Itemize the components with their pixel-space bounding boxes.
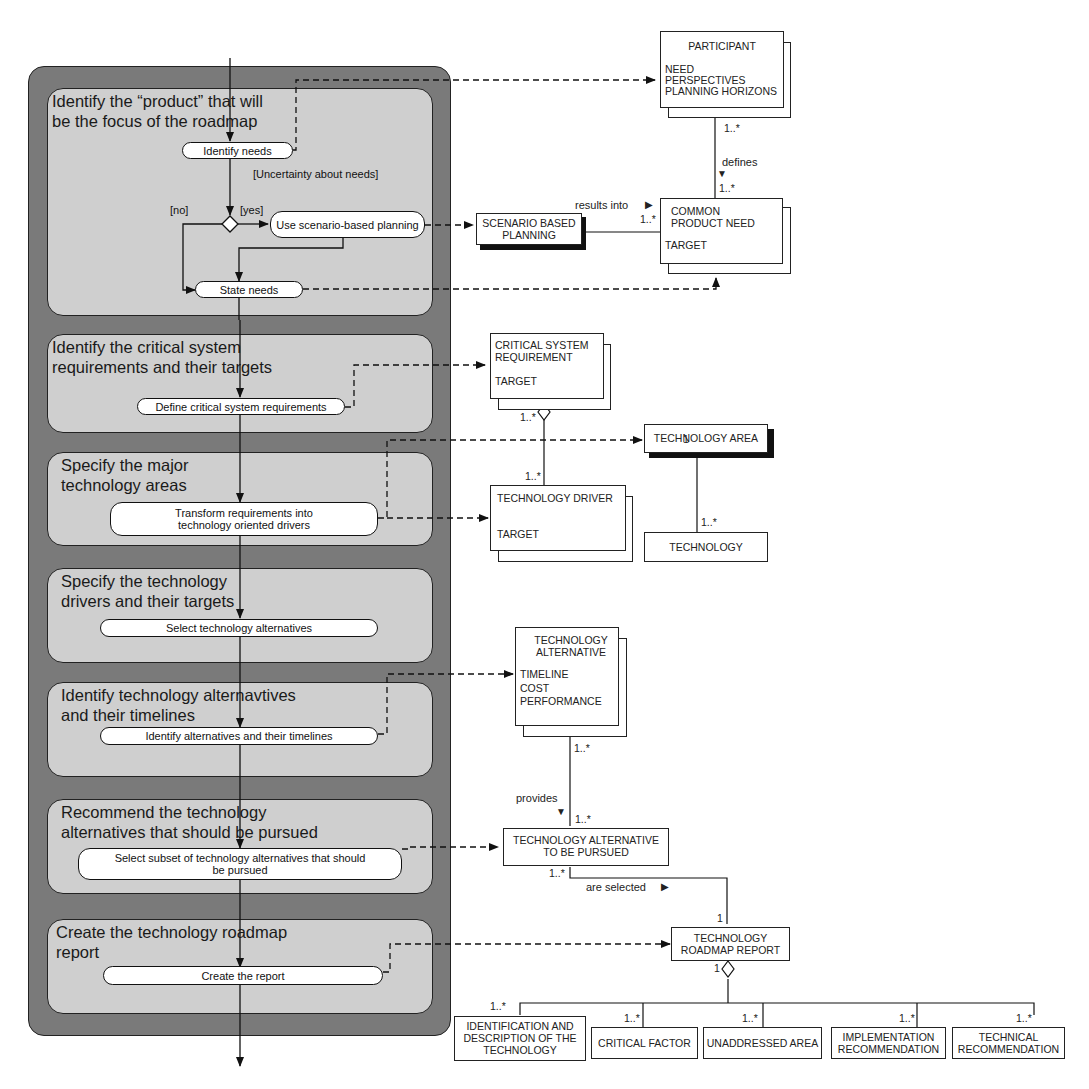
class-common-product-need[interactable]: COMMON PRODUCT NEED TARGET — [660, 198, 783, 264]
guard-no: [no] — [170, 204, 188, 216]
multiplicity: 1 — [683, 433, 689, 445]
activity-identify-alternatives-timelines[interactable]: Identify alternatives and their timeline… — [100, 727, 378, 745]
class-technology-alternative[interactable]: TECHNOLOGY ALTERNATIVE TIMELINE COST PER… — [515, 627, 619, 726]
class-name: TECHNOLOGY DRIVER — [497, 492, 619, 504]
assoc-are-selected-arrow-icon: ▶ — [661, 881, 669, 892]
assoc-provides-arrow-icon: ▼ — [556, 806, 566, 817]
class-participant[interactable]: PARTICIPANT NEED PERSPECTIVES PLANNING H… — [660, 31, 784, 108]
activity-identify-needs[interactable]: Identify needs — [182, 142, 293, 159]
multiplicity: 1..* — [549, 867, 565, 879]
assoc-provides-label: provides — [516, 792, 558, 804]
class-attributes: TARGET — [497, 528, 619, 540]
class-technology-roadmap-report[interactable]: TECHNOLOGY ROADMAP REPORT — [671, 927, 790, 961]
class-scenario-based-planning[interactable]: SCENARIO BASED PLANNING — [476, 213, 582, 245]
multiplicity: 1..* — [1016, 1012, 1032, 1024]
multiplicity: 1..* — [701, 516, 717, 528]
activity-select-subset-alternatives[interactable]: Select subset of technology alternatives… — [78, 848, 402, 880]
multiplicity: 1..* — [719, 182, 735, 194]
multiplicity: 1..* — [575, 813, 591, 825]
assoc-defines-label: defines — [722, 156, 757, 168]
class-critical-system-requirement[interactable]: CRITICAL SYSTEM REQUIREMENT TARGET — [490, 333, 604, 399]
assoc-results-into-arrow-icon: ▶ — [645, 199, 653, 210]
class-attributes: TARGET — [665, 239, 778, 251]
assoc-results-into-label: results into — [575, 199, 628, 211]
multiplicity: 1..* — [624, 1012, 640, 1024]
assoc-defines-arrow-icon: ▼ — [717, 168, 727, 179]
class-technology-alternative-pursued[interactable]: TECHNOLOGY ALTERNATIVE TO BE PURSUED — [503, 828, 669, 866]
class-unaddressed-area[interactable]: UNADDRESSED AREA — [703, 1027, 822, 1059]
class-technology-driver[interactable]: TECHNOLOGY DRIVER TARGET — [490, 485, 626, 551]
class-technology[interactable]: TECHNOLOGY — [644, 532, 768, 562]
class-critical-factor[interactable]: CRITICAL FACTOR — [591, 1027, 698, 1059]
multiplicity: 1..* — [574, 742, 590, 754]
multiplicity: 1..* — [525, 470, 541, 482]
assoc-are-selected-label: are selected — [586, 881, 646, 893]
class-technical-recommendation[interactable]: TECHNICAL RECOMMENDATION — [952, 1027, 1065, 1059]
multiplicity: 1..* — [490, 1000, 506, 1012]
guard-uncertainty: [Uncertainty about needs] — [253, 168, 378, 180]
activity-select-technology-alternatives[interactable]: Select technology alternatives — [100, 619, 378, 637]
class-identification-description[interactable]: IDENTIFICATION AND DESCRIPTION OF THE TE… — [454, 1016, 586, 1061]
multiplicity: 1..* — [724, 122, 740, 134]
class-name: TECHNOLOGY ALTERNATIVE — [520, 634, 614, 658]
aggregation-diamond — [722, 961, 734, 977]
class-technology-area[interactable]: TECHNOLOGY AREA — [644, 424, 768, 453]
class-attributes: TARGET — [495, 375, 599, 387]
activity-use-scenario-planning[interactable]: Use scenario-based planning — [270, 211, 425, 238]
multiplicity: 1..* — [899, 1012, 915, 1024]
multiplicity: 1 — [717, 912, 723, 924]
activity-state-needs[interactable]: State needs — [195, 281, 303, 298]
guard-yes: [yes] — [240, 204, 263, 216]
class-name: COMMON PRODUCT NEED — [665, 205, 778, 229]
class-name: CRITICAL SYSTEM REQUIREMENT — [495, 339, 599, 363]
multiplicity: 1..* — [742, 1012, 758, 1024]
multiplicity: 1..* — [640, 213, 656, 225]
activity-create-report[interactable]: Create the report — [103, 966, 383, 985]
multiplicity: 1 — [714, 962, 720, 974]
decision-diamond — [222, 216, 238, 232]
class-attributes: NEED PERSPECTIVES PLANNING HORIZONS — [665, 64, 779, 97]
class-implementation-recommendation[interactable]: IMPLEMENTATION RECOMMENDATION — [831, 1027, 946, 1059]
activity-transform-requirements[interactable]: Transform requirements into technology o… — [110, 502, 378, 536]
activity-define-critical-requirements[interactable]: Define critical system requirements — [137, 398, 345, 415]
class-attributes: TIMELINE COST PERFORMANCE — [520, 668, 614, 709]
multiplicity: 1..* — [520, 411, 536, 423]
class-name: PARTICIPANT — [665, 40, 779, 52]
